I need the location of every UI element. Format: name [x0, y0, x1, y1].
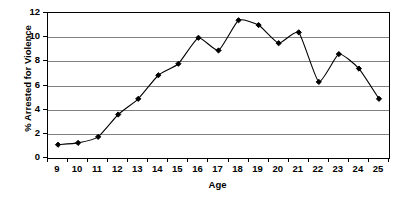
data-point [316, 79, 321, 84]
x-axis-tick-mark [348, 158, 349, 162]
y-axis-tick-labels: 024681012 [20, 0, 40, 200]
x-axis-tick-mark [388, 158, 389, 162]
x-axis-title: Age [47, 179, 388, 190]
y-axis-tick-label: 12 [20, 7, 40, 17]
x-axis-tick-mark [167, 158, 168, 162]
data-point [55, 142, 60, 147]
plot-area [47, 12, 390, 159]
y-axis-tick-label: 0 [20, 152, 40, 162]
x-axis-tick-mark [268, 158, 269, 162]
x-axis-tick-mark [47, 158, 48, 162]
x-axis-tick-mark [87, 158, 88, 162]
data-series-violence [48, 13, 389, 158]
x-axis-tick-mark [328, 158, 329, 162]
x-axis-tick-mark [127, 158, 128, 162]
x-axis-tick-mark [187, 158, 188, 162]
data-point [296, 30, 301, 35]
x-axis-tick-mark [67, 158, 68, 162]
series-markers [55, 18, 381, 148]
y-axis-tick-label: 6 [20, 80, 40, 90]
x-axis-tick-mark [107, 158, 108, 162]
x-axis-tick-mark [147, 158, 148, 162]
y-axis-tick-label: 10 [20, 31, 40, 41]
x-axis-tick-labels: 910111213141516171819202122232425 [47, 164, 388, 178]
x-axis-tick-label: 25 [365, 164, 391, 174]
series-line [58, 20, 379, 145]
x-axis-tick-mark [368, 158, 369, 162]
x-axis-tick-mark [228, 158, 229, 162]
x-axis-tick-mark [288, 158, 289, 162]
data-point [75, 140, 80, 145]
y-axis-tick-label: 4 [20, 104, 40, 114]
x-axis-tick-mark [207, 158, 208, 162]
x-axis-tick-mark [308, 158, 309, 162]
data-point [276, 41, 281, 46]
y-axis-tick-label: 2 [20, 128, 40, 138]
chart-container: % Arrested for Violence 024681012 910111… [0, 0, 408, 200]
x-axis-tick-mark [248, 158, 249, 162]
y-axis-tick-label: 8 [20, 55, 40, 65]
